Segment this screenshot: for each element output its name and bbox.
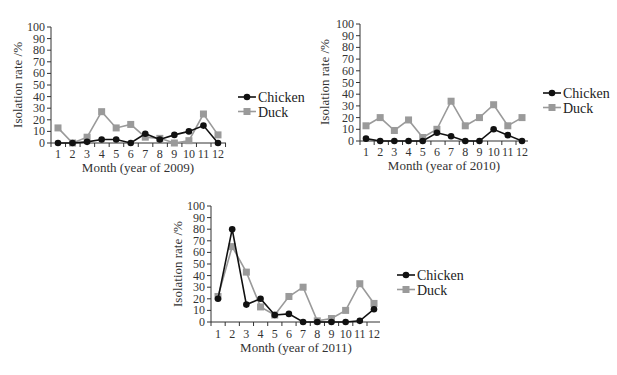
series-line-chicken bbox=[58, 126, 218, 143]
data-point-duck bbox=[55, 124, 62, 131]
data-point-chicken bbox=[271, 312, 278, 319]
data-point-duck bbox=[476, 114, 483, 121]
series-chicken bbox=[215, 226, 378, 325]
series-line-chicken bbox=[218, 229, 374, 322]
x-tick-label: 4 bbox=[258, 327, 264, 341]
series-line-chicken bbox=[366, 129, 522, 141]
legend: ChickenDuck bbox=[238, 90, 305, 120]
x-tick-label: 9 bbox=[328, 327, 334, 341]
data-point-chicken bbox=[113, 136, 120, 143]
data-point-duck bbox=[462, 122, 469, 129]
x-tick-label: 11 bbox=[502, 145, 514, 159]
data-point-duck bbox=[300, 284, 307, 291]
data-point-chicken bbox=[377, 138, 384, 145]
data-point-chicken bbox=[257, 296, 264, 303]
series-chicken bbox=[363, 126, 526, 144]
data-point-chicken bbox=[171, 132, 178, 139]
data-point-chicken bbox=[462, 138, 469, 145]
data-point-chicken bbox=[300, 319, 307, 326]
legend-marker-duck bbox=[549, 104, 556, 111]
x-tick-label: 12 bbox=[368, 327, 380, 341]
data-point-chicken bbox=[328, 319, 335, 326]
data-point-chicken bbox=[127, 140, 134, 147]
y-axis-title: Isolation rate /% bbox=[10, 42, 25, 128]
data-point-duck bbox=[285, 293, 292, 300]
data-point-duck bbox=[98, 108, 105, 115]
x-tick-label: 6 bbox=[128, 147, 134, 161]
data-point-duck bbox=[185, 137, 192, 144]
data-point-chicken bbox=[157, 136, 164, 143]
x-tick-label: 8 bbox=[157, 147, 163, 161]
legend-label-duck: Duck bbox=[563, 101, 593, 116]
figure-caption-clipped bbox=[0, 368, 617, 375]
figure: 0102030405060708090100123456789101112Mon… bbox=[0, 0, 617, 375]
x-tick-label: 9 bbox=[171, 147, 177, 161]
x-tick-label: 5 bbox=[272, 327, 278, 341]
x-tick-label: 12 bbox=[516, 145, 528, 159]
legend-marker-chicken bbox=[549, 90, 556, 97]
x-axis-title: Month (year of 2011) bbox=[240, 340, 352, 355]
y-axis-title: Isolation rate /% bbox=[317, 39, 332, 125]
data-point-duck bbox=[405, 116, 412, 123]
x-tick-label: 9 bbox=[476, 145, 482, 159]
x-tick-label: 7 bbox=[142, 147, 148, 161]
x-axis-title: Month (year of 2010) bbox=[388, 158, 500, 173]
x-tick-label: 10 bbox=[488, 145, 500, 159]
data-point-duck bbox=[342, 307, 349, 314]
data-point-duck bbox=[371, 300, 378, 307]
data-point-chicken bbox=[314, 319, 321, 326]
series-line-duck bbox=[218, 247, 374, 321]
x-tick-label: 3 bbox=[391, 145, 397, 159]
x-tick-label: 2 bbox=[70, 147, 76, 161]
data-point-duck bbox=[377, 114, 384, 121]
data-point-duck bbox=[490, 101, 497, 108]
data-point-chicken bbox=[357, 318, 364, 325]
legend-label-chicken: Chicken bbox=[258, 90, 305, 105]
x-tick-label: 10 bbox=[183, 147, 195, 161]
x-tick-label: 12 bbox=[212, 147, 224, 161]
data-point-duck bbox=[215, 131, 222, 138]
x-axis-title: Month (year of 2009) bbox=[82, 160, 194, 175]
x-tick-label: 3 bbox=[243, 327, 249, 341]
data-point-chicken bbox=[229, 226, 236, 233]
legend-marker-duck bbox=[244, 108, 251, 115]
data-point-duck bbox=[127, 121, 134, 128]
legend-label-chicken: Chicken bbox=[417, 268, 464, 283]
legend-label-duck: Duck bbox=[258, 105, 288, 120]
y-tick-label: 100 bbox=[27, 20, 45, 34]
data-point-chicken bbox=[371, 306, 378, 313]
data-point-chicken bbox=[505, 132, 512, 139]
series-duck bbox=[215, 243, 378, 324]
x-tick-label: 3 bbox=[84, 147, 90, 161]
legend-marker-chicken bbox=[244, 94, 251, 101]
chart-panel-3: 0102030405060708090100123456789101112Mon… bbox=[170, 199, 464, 355]
data-point-chicken bbox=[342, 319, 349, 326]
x-tick-label: 4 bbox=[99, 147, 105, 161]
x-tick-label: 1 bbox=[215, 327, 221, 341]
y-tick-label: 100 bbox=[336, 17, 354, 31]
data-point-chicken bbox=[363, 135, 370, 142]
x-tick-label: 8 bbox=[462, 145, 468, 159]
x-tick-label: 10 bbox=[340, 327, 352, 341]
legend-label-chicken: Chicken bbox=[563, 86, 610, 101]
y-tick-label: 100 bbox=[187, 199, 205, 213]
legend-marker-duck bbox=[403, 286, 410, 293]
legend: ChickenDuck bbox=[543, 86, 610, 116]
data-point-chicken bbox=[391, 138, 398, 145]
chart-panel-2: 0102030405060708090100123456789101112Mon… bbox=[317, 17, 610, 173]
x-tick-label: 5 bbox=[420, 145, 426, 159]
data-point-chicken bbox=[490, 126, 497, 133]
data-point-duck bbox=[171, 140, 178, 147]
data-point-chicken bbox=[200, 122, 207, 129]
x-tick-label: 1 bbox=[55, 147, 61, 161]
data-point-duck bbox=[504, 122, 511, 129]
chart-panel-1: 0102030405060708090100123456789101112Mon… bbox=[10, 20, 305, 175]
x-tick-label: 7 bbox=[448, 145, 454, 159]
data-point-duck bbox=[363, 122, 370, 129]
data-point-duck bbox=[243, 269, 250, 276]
data-point-chicken bbox=[84, 139, 91, 146]
data-point-chicken bbox=[476, 138, 483, 145]
x-tick-label: 6 bbox=[286, 327, 292, 341]
x-tick-label: 5 bbox=[113, 147, 119, 161]
data-point-duck bbox=[356, 280, 363, 287]
